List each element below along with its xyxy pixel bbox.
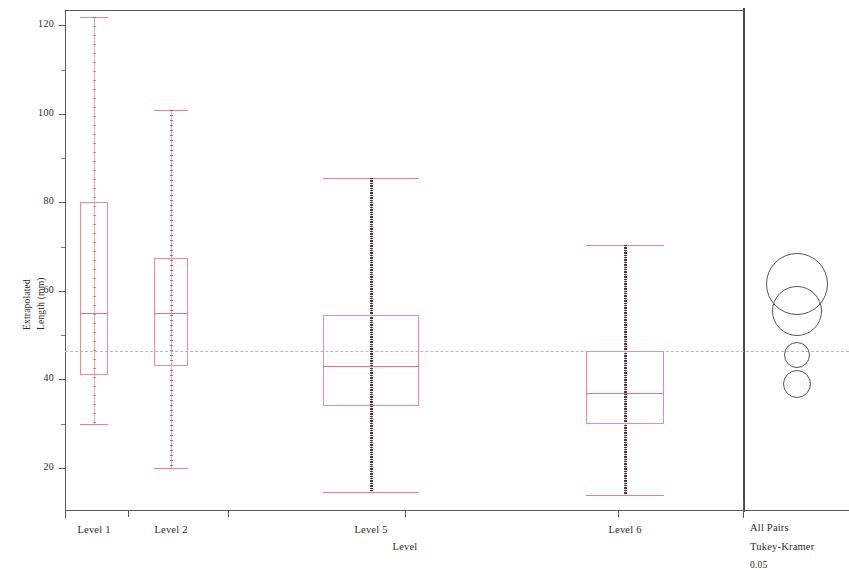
interquartile-box (586, 351, 664, 424)
y-tick-120 (59, 25, 65, 26)
y-tick-40 (59, 379, 65, 380)
y-minor-tick-30 (61, 424, 65, 425)
y-tick-label-120: 120 (26, 19, 54, 29)
whisker-cap-lower (80, 424, 108, 425)
y-minor-tick-90 (61, 158, 65, 159)
oneway-boxplot-figure: 20406080100120 Extrapolated Length (mm) … (0, 0, 849, 570)
whisker-cap-lower (586, 495, 664, 496)
interquartile-box (154, 258, 188, 366)
y-tick-60 (59, 291, 65, 292)
median-line (154, 313, 188, 314)
median-line (323, 366, 419, 367)
plot-frame-left (65, 10, 66, 510)
whisker-cap-lower (323, 492, 419, 493)
comparison-circle-level-2[interactable] (772, 286, 822, 336)
y-axis-title-line2: Length (mm) (36, 277, 47, 330)
x-tick-2 (228, 510, 229, 517)
x-tick-0 (65, 500, 66, 518)
interquartile-box (323, 315, 419, 406)
comparison-circle-level-5[interactable] (784, 342, 810, 368)
x-tick-4 (618, 510, 619, 517)
comparison-circle-level-6[interactable] (783, 370, 811, 398)
median-line (586, 393, 664, 394)
y-minor-tick-110 (61, 70, 65, 71)
interquartile-box (80, 202, 108, 375)
legend-all-pairs: All Pairs (750, 518, 814, 537)
plot-frame-top (65, 10, 744, 11)
x-tick-label-level-2: Level 2 (121, 524, 221, 536)
legend-method: Tukey-Kramer (750, 537, 814, 556)
median-line (80, 313, 108, 314)
x-tick-label-level-5: Level 5 (321, 524, 421, 536)
x-tick-3 (405, 510, 406, 517)
y-tick-label-20: 20 (26, 462, 54, 472)
y-tick-80 (59, 202, 65, 203)
y-tick-label-100: 100 (26, 108, 54, 118)
whisker-cap-lower (154, 468, 188, 469)
comparison-legend: All Pairs Tukey-Kramer 0.05 (750, 518, 814, 570)
y-tick-100 (59, 114, 65, 115)
comparison-panel-divider (743, 8, 745, 512)
x-tick-5 (743, 500, 744, 518)
y-tick-label-40: 40 (26, 373, 54, 383)
y-minor-tick-50 (61, 335, 65, 336)
y-tick-20 (59, 468, 65, 469)
y-tick-label-80: 80 (26, 196, 54, 206)
legend-alpha: 0.05 (750, 556, 814, 570)
y-minor-tick-70 (61, 247, 65, 248)
x-axis-title: Level (365, 541, 445, 552)
y-axis-title-line1: Extrapolated (22, 279, 33, 330)
plot-axis-x (65, 510, 849, 511)
x-tick-label-level-6: Level 6 (575, 524, 675, 536)
x-tick-1 (128, 510, 129, 517)
